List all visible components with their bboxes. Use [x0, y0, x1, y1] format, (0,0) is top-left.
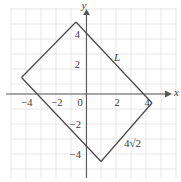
side-label-L: L	[113, 51, 120, 63]
y-tick-label: −2	[70, 119, 81, 130]
square-edge-bottom-right	[101, 103, 152, 162]
y-axis-label: y	[81, 0, 87, 11]
x-tick-label: 4	[144, 97, 150, 108]
length-label-4root2: 4√2	[124, 137, 141, 149]
axes-layer	[6, 9, 172, 178]
coordinate-plane-figure: y x −4 −2 2 4 0 4 2 −2 −4 L 4√2	[0, 0, 181, 182]
x-axis-label: x	[173, 86, 179, 98]
y-tick-label: −4	[70, 149, 82, 160]
x-tick-label: −4	[21, 97, 33, 108]
x-axis-arrowhead	[165, 91, 172, 98]
coordinate-plane-svg: y x −4 −2 2 4 0 4 2 −2 −4 L 4√2	[0, 0, 181, 182]
origin-label: 0	[77, 97, 82, 108]
y-tick-label: 4	[75, 29, 81, 40]
x-tick-label: −2	[51, 97, 62, 108]
x-tick-label: 2	[114, 97, 119, 108]
square-edge-left-bottom	[22, 78, 102, 162]
y-tick-label: 2	[75, 59, 80, 70]
